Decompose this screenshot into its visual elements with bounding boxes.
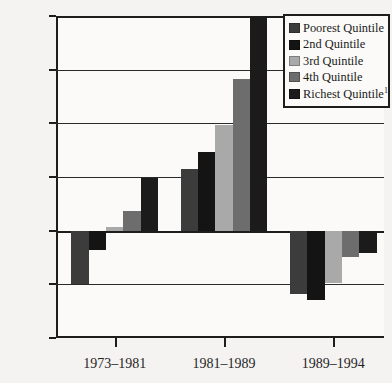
bar [123,211,140,230]
legend-entry: Richest Quintile1 [289,86,385,102]
y-tick-mark [49,283,56,285]
legend-footnote-marker: 1 [384,86,388,95]
legend-label: 2nd Quintile [303,38,365,50]
y-tick-mark [49,122,56,124]
x-tick-mark [115,338,117,347]
x-tick-mark [224,338,226,347]
bar [290,231,307,294]
legend-entry: 4th Quintile [289,69,385,85]
y-tick-mark [49,69,56,71]
legend-swatch-icon [289,72,300,82]
bar [307,231,324,301]
legend-swatch-icon [289,23,300,33]
chart-root: 20%15%10%5%0%-5%-10% 1973–19811981–19891… [0,0,392,383]
bar [106,227,123,230]
legend-swatch-icon [289,56,300,66]
bar [325,231,342,284]
bar [181,169,198,230]
y-tick-mark [49,337,56,339]
legend-label: 3rd Quintile [303,55,363,67]
y-tick-mark [49,176,56,178]
x-tick-label: 1989–1994 [302,356,365,372]
bar [342,231,359,258]
legend-entry: 3rd Quintile [289,53,385,69]
legend-label: Richest Quintile1 [303,87,388,101]
bar [71,231,88,285]
bar [89,231,106,250]
x-tick-label: 1973–1981 [83,356,146,372]
legend-entry: Poorest Quintile [289,20,385,36]
chart-legend: Poorest Quintile2nd Quintile3rd Quintile… [283,14,390,108]
legend-swatch-icon [289,40,300,50]
legend-label: Poorest Quintile [303,22,384,34]
bar [359,231,376,254]
y-tick-mark [49,230,56,232]
legend-entry: 2nd Quintile [289,36,385,52]
bar [141,178,158,231]
x-tick-label: 1981–1989 [193,356,256,372]
legend-label: 4th Quintile [303,71,363,83]
bar [198,152,215,230]
legend-swatch-icon [289,89,300,99]
bar [233,79,250,230]
y-tick-mark [49,15,56,17]
bar [250,16,267,231]
bar [215,125,232,230]
x-tick-mark [333,338,335,347]
